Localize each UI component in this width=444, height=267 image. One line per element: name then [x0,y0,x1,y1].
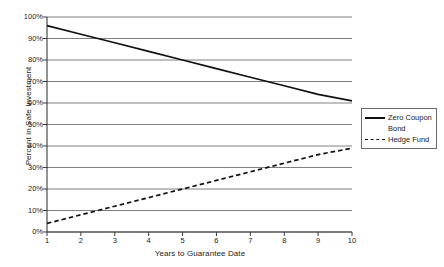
x-axis-tick-label: 5 [171,236,195,245]
gridlines [47,17,352,232]
legend-label-hedge-fund: Hedge Fund [388,135,429,145]
series-line-zero-coupon-bond [47,26,352,101]
x-axis-tick-label: 10 [340,236,364,245]
legend-dashed-line-icon [365,135,385,144]
x-axis-tick-labels: 12345678910 [0,236,444,250]
x-axis-tick-label: 6 [204,236,228,245]
y-axis-ticks [43,17,47,232]
x-axis-tick-label: 3 [103,236,127,245]
legend-label-zero-coupon-bond: Zero Coupon [388,113,432,123]
legend-solid-line-icon [365,113,385,122]
x-axis-title: Years to Guarantee Date [47,249,353,259]
line-chart: Percent in Safe Investment 0%10%20%30%40… [0,0,444,267]
x-axis-tick-label: 7 [238,236,262,245]
legend-item-zero-coupon-bond-line2: Bond [365,123,432,134]
x-axis-tick-label: 9 [306,236,330,245]
series-line-hedge-fund [47,148,352,223]
chart-legend: Zero Coupon Bond Hedge Fund [361,108,437,149]
legend-label-zero-coupon-bond-cont: Bond [388,124,406,134]
x-axis-tick-label: 8 [272,236,296,245]
x-axis-tick-label: 2 [69,236,93,245]
x-axis-tick-label: 1 [35,236,59,245]
x-axis-tick-label: 4 [137,236,161,245]
legend-item-zero-coupon-bond: Zero Coupon [365,112,432,123]
legend-item-hedge-fund: Hedge Fund [365,134,432,145]
